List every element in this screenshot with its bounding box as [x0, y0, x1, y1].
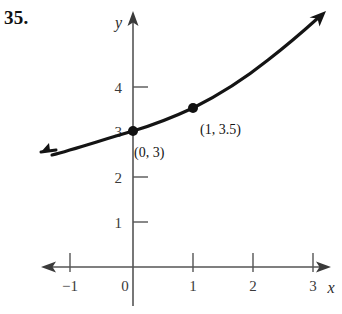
- x-tick-label-3: 3: [309, 278, 317, 294]
- x-tick-label-1: 1: [189, 278, 197, 294]
- x-axis-label: x: [326, 279, 334, 296]
- exponential-curve: [41, 11, 326, 155]
- point-label-0-3: (0, 3): [134, 145, 165, 161]
- x-tick-label-0: 0: [121, 278, 129, 294]
- x-tick-label-2: 2: [249, 278, 257, 294]
- curve-path: [52, 18, 318, 155]
- x-tick-label-neg1: −1: [62, 278, 78, 294]
- y-axis-tick-labels: 4 3 2 1: [115, 80, 123, 231]
- point-label-1-3point5: (1, 3.5): [200, 122, 241, 138]
- x-axis-ticks: [70, 253, 313, 272]
- y-tick-label-2: 2: [115, 170, 123, 186]
- point-marker-0-3: [128, 126, 138, 136]
- exponential-graph-figure: 35. 4 3 2 1: [0, 0, 342, 314]
- y-tick-label-1: 1: [115, 215, 123, 231]
- curve-left-tail: [41, 150, 56, 152]
- coordinate-plane: 4 3 2 1 −1 0 1 2 3 y x: [0, 0, 342, 314]
- y-axis-label: y: [113, 14, 123, 32]
- x-axis-tick-labels: −1 0 1 2 3: [62, 278, 317, 294]
- x-axis: [41, 262, 331, 273]
- point-marker-1-3point5: [188, 103, 198, 113]
- y-tick-label-4: 4: [115, 80, 123, 96]
